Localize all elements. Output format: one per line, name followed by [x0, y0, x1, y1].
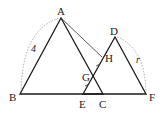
- label-G: G: [82, 71, 90, 83]
- label-D: D: [110, 25, 118, 37]
- geometry-diagram: A B C D E F G H 4 r: [0, 0, 166, 116]
- label-H: H: [105, 52, 113, 64]
- length-label-AB: 4: [31, 43, 36, 54]
- segment-AH: [61, 18, 102, 57]
- label-E: E: [79, 98, 86, 110]
- triangle-ABC: [20, 18, 103, 94]
- length-label-DF: r: [136, 54, 140, 65]
- arc-DF: [117, 37, 146, 92]
- label-F: F: [149, 91, 155, 103]
- label-C: C: [99, 98, 106, 110]
- label-A: A: [57, 5, 65, 17]
- label-B: B: [9, 91, 16, 103]
- triangle-DEF: [83, 37, 146, 94]
